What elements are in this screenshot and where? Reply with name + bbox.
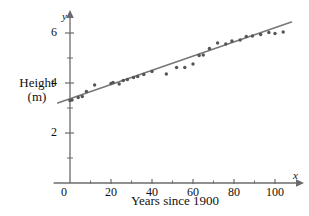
data-point xyxy=(132,76,135,79)
y-axis-arrow-icon xyxy=(66,10,74,18)
trend-line-segment xyxy=(58,22,292,103)
x-axis-tick-label-origin: 0 xyxy=(56,185,72,200)
trend-line xyxy=(58,22,292,103)
data-point xyxy=(273,32,276,35)
x-axis-variable-symbol: x xyxy=(293,170,298,182)
data-point xyxy=(245,35,248,38)
y-axis-tick-label: 2 xyxy=(46,125,62,140)
scatter-plot-figure: Height (m) Years since 1900 y x 02040608… xyxy=(0,0,309,216)
data-point xyxy=(77,96,80,99)
data-point xyxy=(150,70,153,73)
data-point xyxy=(216,41,219,44)
x-axis-tick-label: 40 xyxy=(141,185,163,200)
data-point xyxy=(197,54,200,57)
data-point xyxy=(142,73,145,76)
data-point xyxy=(282,30,285,33)
data-point xyxy=(175,66,178,69)
data-point xyxy=(85,90,88,93)
data-point xyxy=(251,34,254,37)
x-axis-tick-label: 100 xyxy=(264,185,286,200)
data-point xyxy=(165,72,168,75)
data-point xyxy=(191,62,194,65)
data-point xyxy=(126,78,129,81)
y-axis-tick-label: 4 xyxy=(46,75,62,90)
x-axis-tick-label: 80 xyxy=(223,185,245,200)
data-point xyxy=(208,47,211,50)
y-axis-variable-symbol: y xyxy=(62,11,67,23)
data-point xyxy=(202,53,205,56)
data-point xyxy=(224,42,227,45)
ticks-group xyxy=(65,33,275,184)
x-axis-tick-label: 60 xyxy=(182,185,204,200)
data-point xyxy=(93,83,96,86)
data-point xyxy=(70,98,73,101)
data-point xyxy=(118,82,121,85)
y-axis-tick-label: 6 xyxy=(46,25,62,40)
data-point xyxy=(259,33,262,36)
data-point xyxy=(238,38,241,41)
x-axis-tick-label: 20 xyxy=(100,185,122,200)
data-point xyxy=(267,31,270,34)
data-point xyxy=(183,66,186,69)
data-point xyxy=(122,79,125,82)
data-points-group xyxy=(68,30,285,102)
data-point xyxy=(136,75,139,78)
data-point xyxy=(81,95,84,98)
data-point xyxy=(230,39,233,42)
axes-group xyxy=(54,10,304,187)
data-point xyxy=(111,81,114,84)
